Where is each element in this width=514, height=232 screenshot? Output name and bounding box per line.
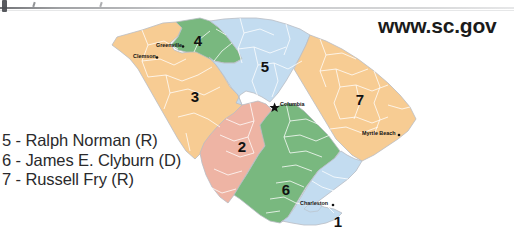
district-number-label: 6 bbox=[282, 181, 290, 198]
district-number-label: 4 bbox=[194, 32, 203, 49]
south-carolina-district-map: 1 2 3 4 5 6 7 Greenville Clemson Columbi… bbox=[90, 9, 430, 232]
district-number-label: 2 bbox=[238, 138, 246, 155]
city-label-greenville: Greenville bbox=[156, 42, 182, 48]
district-number-label: 5 bbox=[261, 58, 269, 75]
district-number-label: 7 bbox=[356, 91, 364, 108]
city-marker-dot bbox=[398, 134, 401, 137]
city-label-myrtle-beach: Myrtle Beach bbox=[362, 130, 396, 136]
city-marker-dot bbox=[182, 45, 185, 48]
scan-artifact-mark bbox=[2, 0, 7, 12]
city-label-charleston: Charleston bbox=[300, 200, 328, 206]
city-label-columbia: Columbia bbox=[280, 101, 306, 107]
city-marker-dot bbox=[332, 204, 335, 207]
district-number-label: 1 bbox=[334, 213, 342, 230]
district-number-label: 3 bbox=[191, 88, 199, 105]
city-label-clemson: Clemson bbox=[133, 53, 156, 59]
city-marker-dot bbox=[156, 56, 159, 59]
map-page: www.sc.gov 5 - Ralph Norman (R) 6 - Jame… bbox=[0, 0, 514, 232]
